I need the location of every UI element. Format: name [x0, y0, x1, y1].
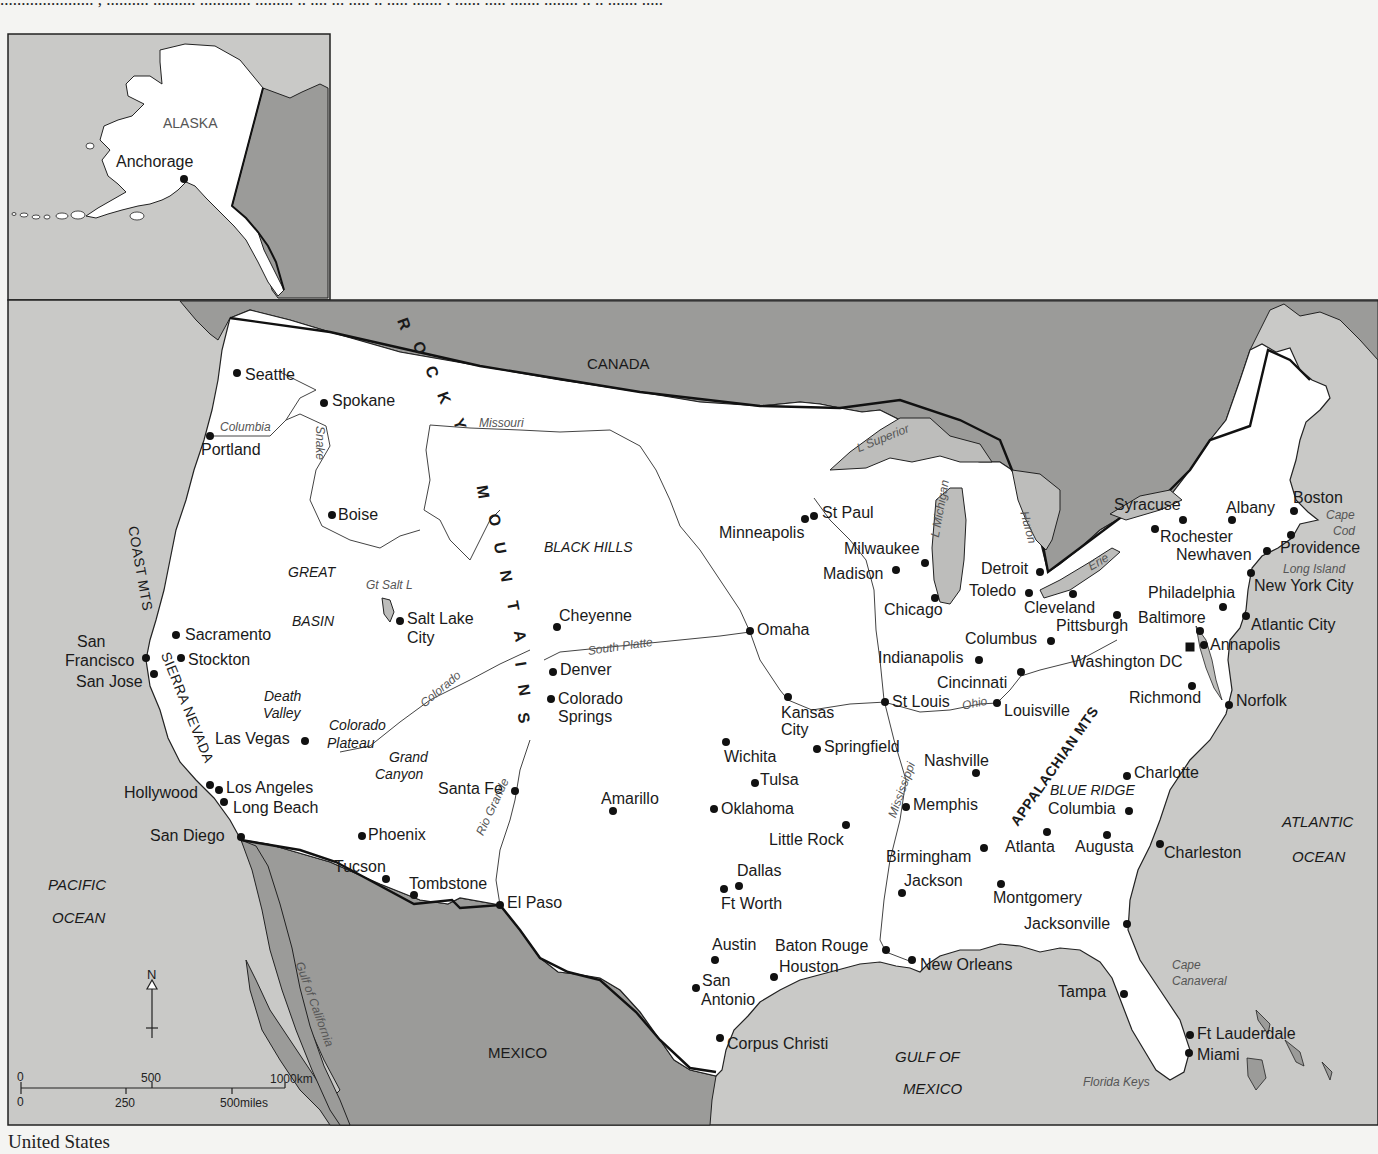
city-label: Wichita — [724, 749, 776, 765]
city-label: Cheyenne — [559, 608, 632, 624]
city-label: Washington DC — [1071, 654, 1182, 670]
city-dot-anchorage — [180, 175, 188, 183]
city-label: Seattle — [245, 367, 295, 383]
country-label-canada: CANADA — [587, 356, 650, 371]
city-dot — [1287, 531, 1295, 539]
city-label: Chicago — [884, 602, 943, 618]
city-label: Santa Fe — [438, 781, 503, 797]
water-feature-label: Long Island — [1283, 563, 1345, 575]
city-dot — [1036, 568, 1044, 576]
city-label: Springs — [558, 709, 612, 725]
city-label: Ft Lauderdale — [1197, 1026, 1296, 1042]
rocky-letter: M — [474, 484, 492, 500]
city-label: Denver — [560, 662, 612, 678]
city-label: Philadelphia — [1148, 585, 1235, 601]
city-label: Providence — [1280, 540, 1360, 556]
city-label: Augusta — [1075, 839, 1134, 855]
city-dot — [547, 695, 555, 703]
city-dot — [358, 832, 366, 840]
scale-mi-250: 250 — [115, 1096, 135, 1110]
city-label: Atlantic City — [1251, 617, 1335, 633]
city-dot — [1043, 828, 1051, 836]
alaska-label: ALASKA — [163, 116, 217, 130]
city-dot — [810, 512, 818, 520]
city-dot — [770, 973, 778, 981]
city-dot — [1123, 920, 1131, 928]
city-label: Cincinnati — [937, 675, 1007, 691]
city-dot — [784, 693, 792, 701]
city-dot — [746, 627, 754, 635]
city-dot — [233, 369, 241, 377]
city-dot — [301, 737, 309, 745]
city-dot — [215, 786, 223, 794]
scale-mi-0: 0 — [17, 1095, 24, 1109]
city-dot — [410, 891, 418, 899]
ocean-label-gulf-2: MEXICO — [903, 1081, 962, 1096]
city-dot — [751, 779, 759, 787]
city-label: Colorado — [558, 691, 623, 707]
city-label: Albany — [1226, 500, 1275, 516]
city-label: Antonio — [701, 992, 755, 1008]
region-label: Grand — [389, 750, 428, 764]
city-label: Birmingham — [886, 849, 971, 865]
city-label: San — [77, 634, 105, 650]
figure-caption: United States — [8, 1131, 110, 1153]
city-dot — [813, 745, 821, 753]
city-dot — [396, 617, 404, 625]
city-label: Boston — [1293, 490, 1343, 506]
scale-mi-500: 500miles — [220, 1096, 268, 1110]
city-dot — [1242, 612, 1250, 620]
city-label: Ft Worth — [721, 896, 782, 912]
city-label-anchorage: Anchorage — [116, 154, 193, 170]
city-dot — [892, 566, 900, 574]
ocean-label-atlantic: ATLANTIC — [1282, 814, 1353, 829]
city-label: Amarillo — [601, 791, 659, 807]
city-label: Atlanta — [1005, 839, 1055, 855]
city-label: Los Angeles — [226, 780, 313, 796]
water-feature-label: Columbia — [220, 421, 271, 433]
city-dot — [980, 844, 988, 852]
city-dot — [720, 885, 728, 893]
city-dot — [921, 559, 929, 567]
city-label: Annapolis — [1210, 637, 1280, 653]
city-dot — [609, 807, 617, 815]
city-dot — [908, 956, 916, 964]
city-label: St Louis — [892, 694, 950, 710]
water-feature-label: Missouri — [479, 417, 524, 429]
city-dot — [692, 984, 700, 992]
region-label: Plateau — [327, 736, 374, 750]
city-label: Little Rock — [769, 832, 844, 848]
city-label: Stockton — [188, 652, 250, 668]
city-label: Charleston — [1164, 845, 1241, 861]
city-label: Nashville — [924, 753, 989, 769]
city-dot — [902, 803, 910, 811]
city-dot — [172, 631, 180, 639]
city-dot — [206, 781, 214, 789]
city-label: San Diego — [150, 828, 225, 844]
city-label: Spokane — [332, 393, 395, 409]
city-dot — [735, 882, 743, 890]
city-dot — [328, 511, 336, 519]
city-label: City — [407, 630, 435, 646]
city-dot — [496, 901, 504, 909]
rocky-letter: A — [511, 629, 529, 643]
city-label: El Paso — [507, 895, 562, 911]
city-dot — [553, 623, 561, 631]
city-label: San Jose — [76, 674, 143, 690]
city-label: Milwaukee — [844, 541, 920, 557]
rocky-letter: S — [515, 711, 533, 724]
water-feature-label: Cod — [1333, 525, 1355, 537]
city-label: Columbia — [1048, 801, 1116, 817]
city-label: Jackson — [904, 873, 963, 889]
city-label: Phoenix — [368, 827, 426, 843]
city-dot — [1196, 627, 1204, 635]
city-dot — [1290, 507, 1298, 515]
city-label: Montgomery — [993, 890, 1082, 906]
region-label: BASIN — [292, 614, 334, 628]
ocean-label-pacific-2: OCEAN — [52, 910, 105, 925]
city-label: Tombstone — [409, 876, 487, 892]
city-dot — [511, 787, 519, 795]
city-dot — [382, 875, 390, 883]
city-dot — [1069, 590, 1077, 598]
region-label: Valley — [263, 706, 301, 720]
